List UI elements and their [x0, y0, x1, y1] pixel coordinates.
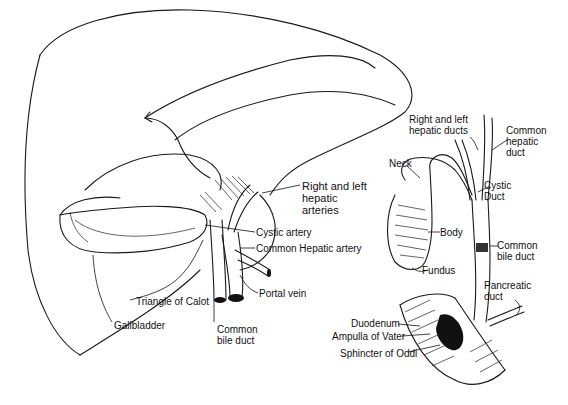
label-right-left-hepatic-arteries: Right and left hepatic arteries — [302, 180, 367, 216]
label-right-left-hepatic-ducts: Right and left hepatic ducts — [409, 114, 468, 136]
label-gallbladder: Gallbladder — [114, 320, 165, 331]
label-sphincter-of-oddi: Sphincter of Oddi — [340, 348, 417, 359]
label-duodenum: Duodenum — [351, 318, 400, 329]
label-common-bile-duct-right: Common bile duct — [497, 240, 538, 262]
illustration — [0, 0, 568, 405]
label-common-hepatic-artery: Common Hepatic artery — [256, 243, 362, 254]
label-common-hepatic-duct: Common hepatic duct — [506, 125, 547, 158]
label-cystic-artery: Cystic artery — [256, 227, 312, 238]
anatomy-figure: Right and left hepatic arteries Cystic a… — [0, 0, 568, 405]
label-body: Body — [440, 227, 463, 238]
label-common-bile-duct-left: Common bile duct — [217, 324, 258, 346]
label-pancreatic-duct: Pancreatic duct — [484, 280, 531, 302]
label-ampulla-of-vater: Ampulla of Vater — [332, 331, 405, 342]
label-fundus: Fundus — [422, 265, 455, 276]
label-neck: Neck — [389, 158, 412, 169]
label-triangle-of-calot: Triangle of Calot — [136, 296, 209, 307]
label-cystic-duct: Cystic Duct — [484, 180, 511, 202]
label-portal-vein: Portal vein — [259, 288, 306, 299]
